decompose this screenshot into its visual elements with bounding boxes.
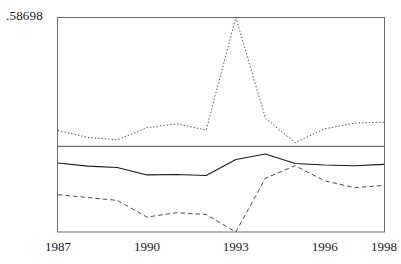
series-upper-band-line bbox=[58, 18, 384, 143]
x-axis-label-1990: 1990 bbox=[134, 239, 160, 255]
x-axis-label-1993: 1993 bbox=[223, 239, 249, 255]
series-central-estimate-line bbox=[58, 154, 384, 176]
x-axis-label-1996: 1996 bbox=[312, 239, 338, 255]
series-lower-band-line bbox=[58, 166, 384, 232]
x-axis-label-1998: 1998 bbox=[371, 239, 397, 255]
plot-area bbox=[0, 0, 401, 264]
x-axis-label-1987: 1987 bbox=[45, 239, 71, 255]
chart-container: .58698 19871990199319961998 bbox=[0, 0, 401, 264]
